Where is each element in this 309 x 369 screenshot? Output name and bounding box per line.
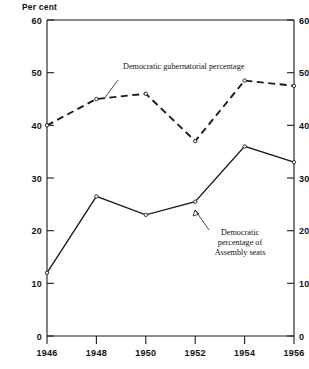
annotation-assembly-line-2: percentage of bbox=[218, 238, 263, 247]
y-tick-label-left: 50 bbox=[31, 68, 42, 78]
data-point-marker bbox=[144, 92, 147, 95]
data-point-marker bbox=[95, 195, 98, 198]
y-tick-label-left: 30 bbox=[31, 174, 42, 184]
y-tick-label-left: 40 bbox=[31, 121, 42, 131]
y-tick-label-right: 10 bbox=[299, 279, 309, 289]
y-tick-label-left: 20 bbox=[31, 226, 42, 236]
y-tick-label-right: 60 bbox=[299, 16, 309, 26]
annotation-gubernatorial-label: Democratic gubernatorial percentage bbox=[123, 62, 245, 71]
data-point-marker bbox=[292, 161, 295, 164]
annotation-leaders bbox=[104, 80, 209, 230]
data-point-marker bbox=[45, 124, 48, 127]
y-tick-labels-left: 60 50 40 30 20 10 0 bbox=[31, 16, 42, 342]
series-line-gubernatorial bbox=[47, 81, 294, 142]
data-point-marker bbox=[95, 97, 98, 100]
annotation-assembly-line-3: Assembly seats bbox=[215, 248, 266, 257]
data-point-marker bbox=[292, 84, 295, 87]
x-axis-ticks bbox=[47, 336, 294, 344]
data-point-marker bbox=[243, 79, 246, 82]
line-chart: Per cent 60 50 40 30 20 10 0 60 50 40 30… bbox=[0, 0, 309, 369]
chart-container: Per cent 60 50 40 30 20 10 0 60 50 40 30… bbox=[0, 0, 309, 369]
y-axis-ticks-left bbox=[47, 20, 54, 336]
data-point-marker bbox=[194, 139, 197, 142]
x-tick-label: 1956 bbox=[283, 348, 304, 358]
y-axis-ticks-right bbox=[287, 20, 294, 336]
x-tick-labels: 1946 1948 1950 1952 1954 1956 bbox=[36, 348, 304, 358]
x-tick-label: 1950 bbox=[135, 348, 156, 358]
annotation-assembly-label: Democratic percentage of Assembly seats bbox=[215, 228, 266, 257]
data-point-marker bbox=[45, 271, 48, 274]
x-tick-label: 1954 bbox=[234, 348, 255, 358]
x-tick-label: 1946 bbox=[36, 348, 57, 358]
y-tick-label-left: 0 bbox=[37, 332, 42, 342]
y-tick-label-left: 60 bbox=[31, 16, 42, 26]
annotation-assembly-line-1: Democratic bbox=[221, 228, 260, 237]
y-tick-label-right: 30 bbox=[299, 174, 309, 184]
data-point-marker bbox=[194, 200, 197, 203]
y-tick-label-left: 10 bbox=[31, 279, 42, 289]
x-tick-label: 1948 bbox=[86, 348, 107, 358]
y-axis-title: Per cent bbox=[22, 2, 57, 12]
data-point-marker bbox=[144, 213, 147, 216]
y-tick-label-right: 20 bbox=[299, 226, 309, 236]
leader-line-assembly bbox=[195, 210, 209, 230]
series-markers-gubernatorial bbox=[45, 79, 295, 143]
y-tick-label-right: 50 bbox=[299, 68, 309, 78]
y-tick-labels-right: 60 50 40 30 20 10 0 bbox=[299, 16, 309, 342]
x-tick-label: 1952 bbox=[185, 348, 206, 358]
y-tick-label-right: 0 bbox=[299, 332, 304, 342]
data-point-marker bbox=[243, 145, 246, 148]
y-tick-label-right: 40 bbox=[299, 121, 309, 131]
